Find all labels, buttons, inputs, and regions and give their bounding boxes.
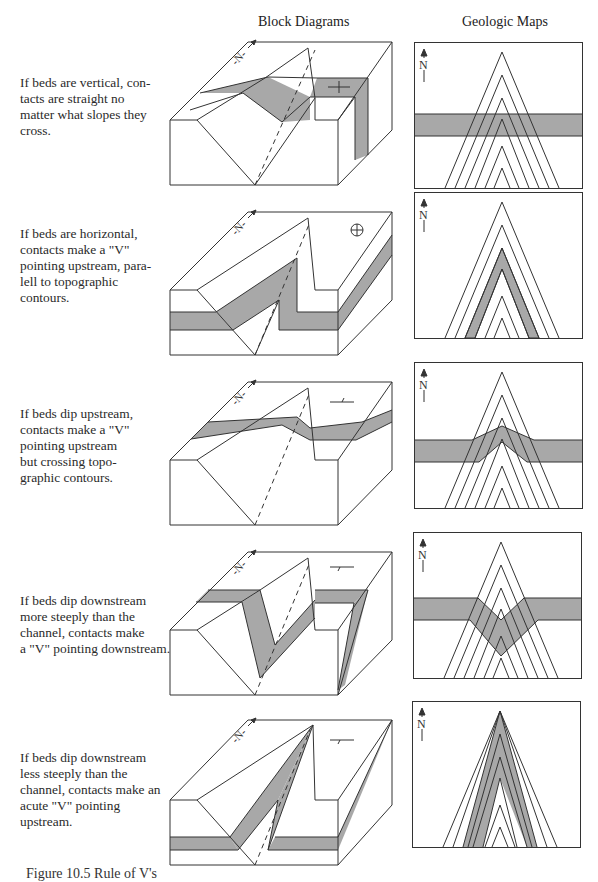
text-line: contacts make a "V" (20, 242, 170, 258)
geologic-map: N (414, 362, 584, 512)
row-horizontal-beds: If beds are horizontal, contacts make a … (0, 170, 598, 340)
figure-caption: Figure 10.5 Rule of V's (26, 866, 157, 882)
north-arrow-label: N (417, 717, 426, 731)
text-line: channel, contacts make (20, 625, 170, 641)
text-line: channel, contacts make an (20, 782, 170, 798)
description-text: If beds dip upstream, contacts make a "V… (20, 406, 170, 486)
geologic-map: N (412, 701, 582, 851)
row-dip-upstream: If beds dip upstream, contacts make a "V… (0, 340, 598, 510)
row-vertical-beds: If beds are vertical, con- tacts are str… (0, 0, 598, 170)
north-arrow-label: -N- (229, 726, 249, 746)
description-text: If beds are horizontal, contacts make a … (20, 226, 170, 306)
text-line: upstream. (20, 814, 170, 830)
north-arrow-label: N (419, 58, 428, 72)
description-text: If beds dip downstream less steeply than… (20, 750, 170, 830)
geologic-map: N (413, 532, 583, 682)
text-line: but crossing topo- (20, 454, 170, 470)
north-arrow-label: -N- (229, 388, 249, 408)
text-line: acute "V" pointing (20, 798, 170, 814)
north-arrow-label: N (418, 548, 427, 562)
north-arrow-label: -N- (229, 558, 249, 578)
description-text: If beds dip downstream more steeply than… (20, 593, 170, 657)
text-line: If beds are vertical, con- (20, 75, 170, 91)
text-line: contours. (20, 290, 170, 306)
text-line: pointing upstream, para- (20, 258, 170, 274)
text-line: If beds dip downstream (20, 750, 170, 766)
text-line: tacts are straight no (20, 91, 170, 107)
text-line: If beds are horizontal, (20, 226, 170, 242)
text-line: less steeply than the (20, 766, 170, 782)
text-line: If beds dip downstream (20, 593, 170, 609)
description-text: If beds are vertical, con- tacts are str… (20, 75, 170, 139)
text-line: cross. (20, 123, 170, 139)
text-line: graphic contours. (20, 470, 170, 486)
text-line: more steeply than the (20, 609, 170, 625)
block-diagram: -N- (160, 705, 400, 875)
geologic-map: N (414, 192, 584, 342)
text-line: a "V" pointing downstream. (20, 641, 170, 657)
row-dip-downstream-steep: If beds dip downstream more steeply than… (0, 510, 598, 680)
text-line: If beds dip upstream, (20, 406, 170, 422)
text-line: lell to topographic (20, 274, 170, 290)
north-arrow-label: N (419, 378, 428, 392)
text-line: contacts make a "V" (20, 422, 170, 438)
north-arrow-label: N (419, 208, 428, 222)
north-arrow-label: -N- (229, 218, 249, 238)
row-dip-downstream-gentle: If beds dip downstream less steeply than… (0, 680, 598, 850)
north-arrow-label: -N- (229, 48, 249, 68)
text-line: matter what slopes they (20, 107, 170, 123)
text-line: pointing upstream (20, 438, 170, 454)
